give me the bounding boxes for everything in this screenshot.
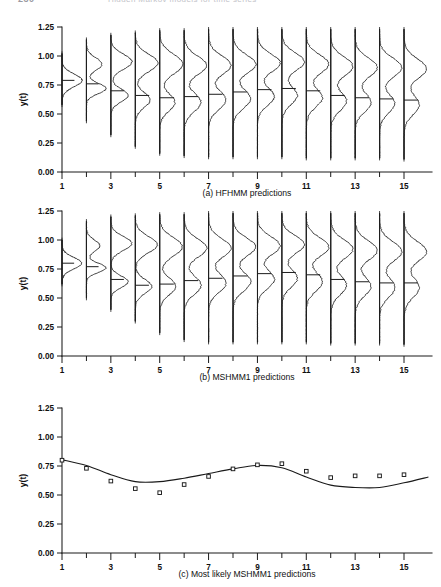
svg-text:3: 3: [109, 563, 114, 572]
data-point-marker: [353, 474, 357, 478]
data-point-marker: [256, 463, 260, 467]
svg-text:13: 13: [351, 182, 361, 191]
svg-text:3: 3: [109, 182, 114, 191]
predictive-density-figure: 0.000.250.500.751.001.2513579111315y(t)(…: [0, 0, 441, 587]
data-point-marker: [231, 467, 235, 471]
svg-text:1.25: 1.25: [38, 23, 54, 32]
svg-text:15: 15: [399, 182, 409, 191]
page-number: 230: [18, 0, 35, 4]
svg-text:5: 5: [157, 563, 162, 572]
figure-root: 230 Hidden Markov models for time series…: [0, 0, 441, 587]
data-point-marker: [207, 475, 211, 479]
svg-text:0.25: 0.25: [38, 323, 54, 332]
svg-text:1.25: 1.25: [38, 404, 54, 413]
svg-text:0.00: 0.00: [38, 352, 54, 361]
figure-background: [0, 0, 441, 587]
svg-text:3: 3: [109, 366, 114, 375]
svg-text:1.00: 1.00: [38, 433, 54, 442]
panel-caption: (a) HFHMM predictions: [203, 188, 292, 198]
svg-text:5: 5: [157, 182, 162, 191]
svg-text:0.25: 0.25: [38, 139, 54, 148]
svg-text:0.75: 0.75: [38, 462, 54, 471]
svg-text:5: 5: [157, 366, 162, 375]
svg-text:11: 11: [302, 366, 311, 375]
data-point-marker: [133, 487, 137, 491]
svg-text:1: 1: [60, 366, 65, 375]
y-axis-label: y(t): [18, 93, 28, 107]
panel-caption: (c) Most likely MSHMM1 predictions: [178, 569, 315, 579]
svg-text:15: 15: [399, 563, 409, 572]
data-point-marker: [304, 469, 308, 473]
svg-text:0.75: 0.75: [38, 265, 54, 274]
svg-text:0.50: 0.50: [38, 110, 54, 119]
svg-text:1: 1: [60, 563, 65, 572]
data-point-marker: [158, 491, 162, 495]
svg-text:13: 13: [351, 366, 361, 375]
svg-text:0.25: 0.25: [38, 520, 54, 529]
data-point-marker: [182, 483, 186, 487]
page-header: 230 Hidden Markov models for time series: [0, 0, 441, 10]
svg-text:13: 13: [351, 563, 361, 572]
svg-text:1: 1: [60, 182, 65, 191]
svg-text:15: 15: [399, 366, 409, 375]
svg-text:0.75: 0.75: [38, 81, 54, 90]
data-point-marker: [378, 474, 382, 478]
data-point-marker: [280, 462, 284, 466]
data-point-marker: [60, 458, 64, 462]
data-point-marker: [402, 473, 406, 477]
running-title: Hidden Markov models for time series: [108, 0, 257, 4]
panel-caption: (b) MSHMM1 predictions: [199, 372, 294, 382]
svg-text:0.00: 0.00: [38, 549, 54, 558]
svg-text:1.25: 1.25: [38, 207, 54, 216]
y-axis-label: y(t): [18, 277, 28, 291]
svg-text:0.50: 0.50: [38, 491, 54, 500]
svg-text:1.00: 1.00: [38, 52, 54, 61]
svg-text:1.00: 1.00: [38, 236, 54, 245]
svg-text:0.00: 0.00: [38, 168, 54, 177]
data-point-marker: [329, 476, 333, 480]
data-point-marker: [85, 467, 89, 471]
y-axis-label: y(t): [18, 474, 28, 488]
svg-text:0.50: 0.50: [38, 294, 54, 303]
svg-text:11: 11: [302, 182, 311, 191]
data-point-marker: [109, 479, 113, 483]
